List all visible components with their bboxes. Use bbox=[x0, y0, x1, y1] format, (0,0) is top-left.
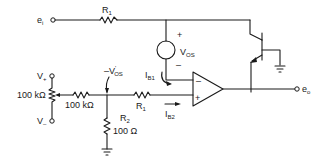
svg-text:+: + bbox=[195, 93, 200, 103]
svg-text:ei: ei bbox=[37, 15, 43, 26]
svg-text:R1: R1 bbox=[102, 5, 113, 16]
output-terminal-eo: eo bbox=[295, 84, 311, 95]
current-ib1: IB1 bbox=[145, 70, 172, 86]
resistor-r2: R2 100 Ω bbox=[104, 113, 138, 136]
svg-text:–: – bbox=[176, 60, 181, 70]
ground-icon-r2 bbox=[102, 149, 112, 155]
svg-text:100 Ω: 100 Ω bbox=[113, 126, 138, 136]
svg-text:R2: R2 bbox=[120, 113, 131, 124]
resistor-r1-top: R1 bbox=[100, 5, 117, 23]
svg-text:–V'OS: –V'OS bbox=[104, 65, 123, 77]
svg-text:IB1: IB1 bbox=[145, 70, 156, 81]
svg-text:–: – bbox=[196, 76, 201, 86]
potentiometer-100k: 100 kΩ bbox=[17, 78, 60, 119]
svg-text:100 kΩ: 100 kΩ bbox=[17, 90, 46, 100]
svg-text:R1: R1 bbox=[136, 101, 147, 112]
svg-text:100 kΩ: 100 kΩ bbox=[65, 100, 94, 110]
svg-text:eo: eo bbox=[302, 84, 311, 95]
svg-text:IB2: IB2 bbox=[165, 109, 176, 120]
current-ib2: IB2 bbox=[165, 102, 181, 120]
svg-text:VOS: VOS bbox=[180, 47, 195, 58]
transistor-darlington bbox=[250, 20, 280, 92]
label-vos-prime: –V'OS bbox=[104, 65, 123, 94]
voltage-source-vos: + VOS – bbox=[157, 30, 195, 70]
svg-text:V–: V– bbox=[37, 116, 47, 127]
circuit-diagram: ei R1 + VOS – – + eo I bbox=[0, 0, 327, 167]
svg-text:+: + bbox=[177, 30, 182, 40]
input-terminal-ei: ei bbox=[37, 15, 55, 26]
ground-icon-transistor bbox=[275, 66, 285, 72]
svg-text:V+: V+ bbox=[37, 71, 47, 82]
op-amp: – + bbox=[193, 72, 223, 106]
resistor-r1-bottom: R1 bbox=[134, 92, 150, 112]
